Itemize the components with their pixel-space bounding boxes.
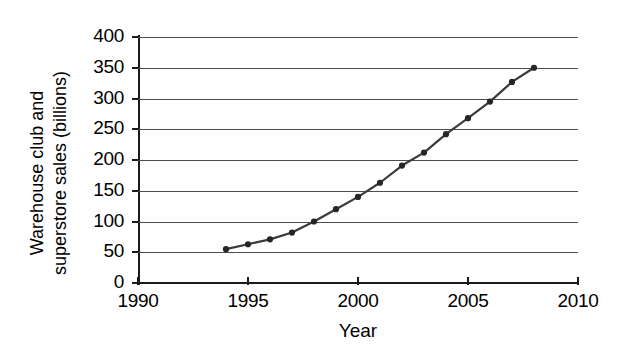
y-axis-title: Warehouse club and superstore sales (bil…	[26, 28, 72, 318]
data-point	[421, 150, 427, 156]
data-series-svg	[138, 37, 578, 283]
sales-markers	[223, 65, 537, 253]
data-point	[509, 79, 515, 85]
y-axis-tick-label: 100	[78, 210, 124, 232]
data-point	[531, 65, 537, 71]
data-point	[289, 229, 295, 235]
data-point	[245, 241, 251, 247]
data-point	[223, 246, 229, 252]
data-point	[443, 131, 449, 137]
y-axis-tick-label: 150	[78, 179, 124, 201]
y-axis-title-line-2: superstore sales (billions)	[49, 28, 72, 318]
x-axis-tick-label: 1995	[213, 290, 283, 312]
data-point	[333, 206, 339, 212]
sales-line	[226, 68, 534, 249]
x-axis-title: Year	[288, 320, 428, 342]
x-axis-tick-label: 2005	[433, 290, 503, 312]
chart-figure: 050100150200250300350400 199019952000200…	[0, 0, 627, 354]
x-axis-tick-label: 1990	[103, 290, 173, 312]
y-axis-tick-label: 250	[78, 117, 124, 139]
data-point	[355, 194, 361, 200]
y-axis-title-line-1: Warehouse club and	[26, 28, 49, 318]
data-point	[399, 162, 405, 168]
x-axis-tick-label: 2000	[323, 290, 393, 312]
x-axis-tick-label: 2010	[543, 290, 613, 312]
plot-area	[138, 37, 578, 283]
y-axis-tick-label: 400	[78, 25, 124, 47]
data-point	[311, 218, 317, 224]
y-axis-tick-label: 350	[78, 56, 124, 78]
y-axis-tick-label: 50	[78, 240, 124, 262]
data-point	[465, 115, 471, 121]
data-point	[487, 98, 493, 104]
y-axis-tick-label: 300	[78, 87, 124, 109]
y-axis-tick-label: 200	[78, 148, 124, 170]
data-point	[377, 180, 383, 186]
data-point	[267, 236, 273, 242]
